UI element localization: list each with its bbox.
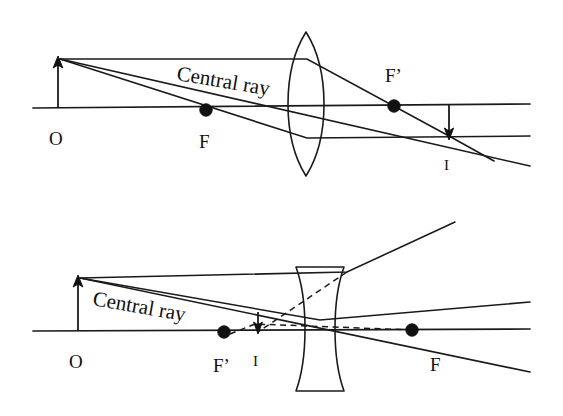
focal-point-f-dot	[406, 324, 418, 336]
label-image: I	[444, 157, 449, 173]
label-focus-far: F’	[385, 65, 402, 86]
label-focus-near: F	[199, 131, 210, 152]
optical-axis	[33, 104, 530, 108]
converging-lens-diagram: O F F’ I Central ray	[0, 0, 563, 208]
optics-figure: O F F’ I Central ray	[0, 0, 563, 416]
focal-point-fprime-dot	[388, 100, 400, 112]
label-image: I	[253, 353, 258, 369]
central-ray-caption: Central ray	[175, 61, 272, 100]
virtual-ray-focal-tail	[230, 324, 255, 334]
label-object: O	[69, 351, 83, 372]
biconvex-lens	[288, 32, 324, 176]
label-focus-far: F	[430, 354, 441, 375]
diverging-lens-diagram: O F’ I F Central ray	[0, 208, 563, 416]
parallel-ray	[80, 222, 455, 278]
label-focus-near: F’	[213, 355, 230, 376]
focal-point-f-dot	[200, 104, 212, 116]
object-arrow	[53, 56, 63, 108]
object-arrow	[73, 275, 83, 331]
label-object: O	[49, 128, 63, 149]
optical-axis	[33, 329, 530, 331]
focal-point-fprime-dot	[218, 326, 230, 338]
central-ray	[80, 278, 530, 372]
focal-ray	[60, 59, 530, 138]
virtual-ray-parallel	[258, 272, 347, 332]
central-ray-caption: Central ray	[91, 286, 188, 326]
